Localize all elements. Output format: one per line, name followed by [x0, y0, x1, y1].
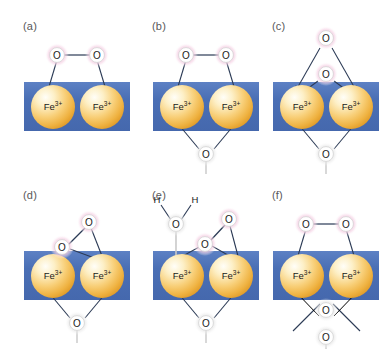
panel-a: (a) Fe3+ Fe3+: [10, 8, 139, 185]
fe-left-atom: Fe3+: [160, 254, 204, 298]
oxygen-top-left-label: O: [302, 219, 310, 230]
fe-right-atom: Fe3+: [329, 85, 373, 129]
panel-b-diagram: Fe3+ Fe3+ O O O: [139, 8, 268, 185]
oxygen-top-left-atom: O: [174, 43, 198, 67]
oxygen-bridge-bottom-atom: O: [314, 142, 338, 166]
oxygen-top-right-label: O: [93, 50, 101, 61]
oxygen-bridge-bottom-label: O: [202, 318, 210, 329]
panel-f: (f) Fe3+ Fe3+: [259, 177, 388, 354]
panel-c: (c) Fe3+ Fe3+: [259, 8, 388, 185]
panel-c-diagram: Fe3+ Fe3+ O O O: [259, 8, 388, 185]
oxygen-bridge-bottom-label: O: [322, 149, 330, 160]
oxygen-lower-label: O: [58, 242, 66, 253]
figure-root: (a) Fe3+ Fe3+: [0, 0, 388, 354]
oxygen-top-right-atom: O: [214, 43, 238, 67]
fe-left-atom: Fe3+: [280, 85, 324, 129]
oxygen-top-left-label: O: [182, 50, 190, 61]
panel-e-diagram: H H Fe3+ Fe3+ O O: [139, 177, 268, 354]
oxygen-top-right-atom: O: [334, 212, 358, 236]
oxygen-bridge-low-label: O: [322, 332, 330, 343]
fe-right-atom: Fe3+: [329, 254, 373, 298]
oxygen-mid-atom: O: [314, 62, 338, 86]
oxygen-bridge-bottom-atom: O: [65, 311, 89, 335]
fe-left-atom: Fe3+: [280, 254, 324, 298]
panel-d-diagram: Fe3+ Fe3+ O O O: [10, 177, 139, 354]
fe-right-atom: Fe3+: [209, 254, 253, 298]
fe-left-atom: Fe3+: [31, 85, 75, 129]
oxygen-top-left-atom: O: [45, 43, 69, 67]
oxygen-upper-label: O: [85, 217, 93, 228]
oxygen-upper-label: O: [225, 214, 233, 225]
oxygen-bridge-low-atom: O: [314, 325, 338, 349]
oxygen-apex-label: O: [322, 33, 330, 44]
oxygen-upper-atom: O: [77, 210, 101, 234]
oxygen-bridge-bottom-atom: O: [194, 142, 218, 166]
fe-right-atom: Fe3+: [80, 254, 124, 298]
fe-left-atom: Fe3+: [160, 85, 204, 129]
oxygen-lower-label: O: [201, 239, 209, 250]
fe-left-atom: Fe3+: [31, 254, 75, 298]
oxygen-bridge-bottom-atom: O: [194, 311, 218, 335]
oxygen-water-label: O: [172, 219, 180, 230]
panel-b: (b) Fe3+ Fe3+: [139, 8, 268, 185]
oxygen-apex-atom: O: [314, 26, 338, 50]
oxygen-top-left-atom: O: [294, 212, 318, 236]
oxygen-bridge-bottom-label: O: [202, 149, 210, 160]
oxygen-bridge-mid-atom: O: [314, 298, 338, 322]
fe-right-atom: Fe3+: [209, 85, 253, 129]
oxygen-bridge-bottom-label: O: [73, 318, 81, 329]
oxygen-upper-atom: O: [217, 207, 241, 231]
panel-f-diagram: Fe3+ Fe3+ O O O: [259, 177, 388, 354]
oxygen-top-right-atom: O: [85, 43, 109, 67]
oxygen-lower-atom: O: [50, 235, 74, 259]
panel-d: (d) Fe3+ Fe3+: [10, 177, 139, 354]
panel-a-diagram: Fe3+ Fe3+ O O: [10, 8, 139, 185]
fe-right-atom: Fe3+: [80, 85, 124, 129]
hydrogen-right-label: H: [192, 194, 199, 205]
oxygen-top-right-label: O: [342, 219, 350, 230]
oxygen-lower-atom: O: [193, 232, 217, 256]
hydrogen-left-label: H: [154, 194, 161, 205]
oxygen-top-right-label: O: [222, 50, 230, 61]
oxygen-top-left-label: O: [53, 50, 61, 61]
oxygen-water-atom: O: [164, 212, 188, 236]
oxygen-bridge-mid-label: O: [322, 305, 330, 316]
panel-e: (e) H H Fe3+: [139, 177, 268, 354]
oxygen-mid-label: O: [322, 69, 330, 80]
